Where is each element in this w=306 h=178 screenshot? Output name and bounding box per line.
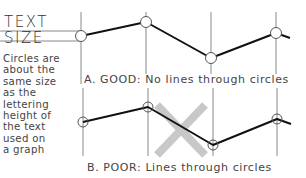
note-line: lettering xyxy=(3,99,65,110)
explanation-note: Circles are about the same size as the l… xyxy=(3,53,65,156)
text-size-diagram: TEXT SIZE Circles are about the same siz… xyxy=(0,0,306,178)
data-point-circle xyxy=(271,28,282,39)
note-line: same size xyxy=(3,76,65,87)
note-line: used on xyxy=(3,133,65,144)
caption-good-example: A. GOOD: No lines through circles xyxy=(84,74,291,86)
note-line: about the xyxy=(3,64,65,75)
title-size: SIZE xyxy=(4,31,44,46)
note-line: the text xyxy=(3,121,65,132)
data-point-circle xyxy=(141,17,152,28)
note-line: a graph xyxy=(3,144,65,155)
note-line: height of xyxy=(3,110,65,121)
caption-poor-example: B. POOR: Lines through circles xyxy=(87,162,272,174)
note-line: Circles are xyxy=(3,53,65,64)
note-line: as the xyxy=(3,87,65,98)
data-point-circle xyxy=(76,31,87,42)
data-point-circle xyxy=(206,53,217,64)
title-text: TEXT xyxy=(4,15,48,30)
data-line xyxy=(81,22,290,58)
